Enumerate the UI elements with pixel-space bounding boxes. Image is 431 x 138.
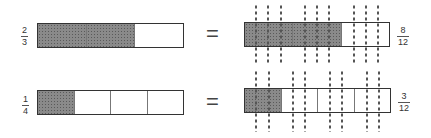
subdivision-dotted-line bbox=[267, 4, 269, 64]
subdivision-dotted-line bbox=[328, 4, 330, 64]
fraction-one-fourth: 1 4 bbox=[22, 95, 29, 116]
subdivision-dotted-line bbox=[255, 4, 257, 64]
subdivision-dotted-line bbox=[377, 4, 379, 64]
bar-fourths bbox=[37, 90, 184, 115]
denominator: 3 bbox=[21, 38, 28, 47]
numerator: 2 bbox=[21, 26, 28, 35]
subdivision-dotted-line bbox=[365, 4, 367, 64]
numerator: 1 bbox=[22, 95, 29, 104]
subdivision-dotted-line bbox=[268, 70, 270, 132]
segment-empty bbox=[111, 91, 148, 114]
fraction-two-thirds: 2 3 bbox=[21, 26, 28, 47]
segment-shaded bbox=[38, 91, 75, 114]
denominator: 4 bbox=[22, 107, 29, 116]
denominator: 12 bbox=[397, 38, 409, 47]
denominator: 12 bbox=[398, 104, 410, 113]
subdivision-dotted-line bbox=[353, 4, 355, 64]
fraction-eight-twelfths: 8 12 bbox=[397, 26, 409, 47]
subdivision-dotted-line bbox=[366, 70, 368, 132]
bar-twelfths-from-fourths bbox=[244, 88, 391, 113]
segment-shaded bbox=[245, 89, 282, 112]
segment-empty bbox=[135, 24, 183, 47]
subdivision-dotted-line bbox=[341, 70, 343, 132]
segment-empty bbox=[355, 89, 391, 112]
subdivision-dotted-line bbox=[378, 70, 380, 132]
segment-empty bbox=[75, 91, 112, 114]
segment-shaded bbox=[87, 24, 136, 47]
subdivision-dotted-line bbox=[304, 70, 306, 132]
subdivision-dotted-line bbox=[292, 70, 294, 132]
segment-shaded bbox=[38, 24, 87, 47]
numerator: 8 bbox=[400, 26, 407, 35]
subdivision-dotted-line bbox=[304, 4, 306, 64]
subdivision-dotted-line bbox=[280, 4, 282, 64]
numerator: 3 bbox=[401, 92, 408, 101]
equals-sign: = bbox=[206, 23, 219, 45]
segment-empty bbox=[148, 91, 184, 114]
subdivision-dotted-line bbox=[255, 70, 257, 132]
segment-empty bbox=[282, 89, 319, 112]
bar-thirds bbox=[37, 23, 184, 48]
fraction-three-twelfths: 3 12 bbox=[398, 92, 410, 113]
equals-sign: = bbox=[206, 91, 219, 113]
segment-empty bbox=[318, 89, 355, 112]
subdivision-dotted-line bbox=[329, 70, 331, 132]
subdivision-dotted-line bbox=[316, 4, 318, 64]
